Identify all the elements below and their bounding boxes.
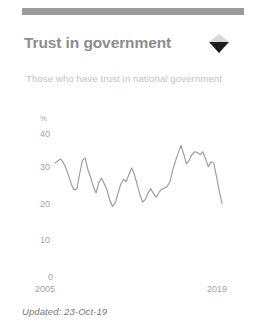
y-axis-unit-label: % <box>40 114 47 123</box>
line-chart: % 40 30 20 10 0 2005 2019 <box>0 100 257 300</box>
updated-timestamp: Updated: 23-Oct-19 <box>22 306 107 317</box>
x-tick-label-end: 2019 <box>207 284 227 294</box>
trust-in-government-card: Trust in government Those who have trust… <box>0 0 257 330</box>
y-tick-label-10: 10 <box>40 235 50 245</box>
collapse-expand-diamond-icon[interactable] <box>208 32 230 54</box>
y-tick-label-30: 30 <box>40 162 50 172</box>
y-tick-label-20: 20 <box>40 199 50 209</box>
page-title: Trust in government <box>24 35 171 51</box>
card-subtitle: Those who have trust in national governm… <box>26 73 246 84</box>
card-header: Trust in government <box>24 30 236 56</box>
card-accent-bar <box>22 8 244 15</box>
y-tick-label-40: 40 <box>40 129 50 139</box>
chart-svg: % 40 30 20 10 0 2005 2019 <box>0 100 257 300</box>
series-line-trust <box>55 145 222 206</box>
triangle-down-shape <box>209 42 229 53</box>
triangle-up-shape <box>209 34 229 42</box>
y-tick-label-0: 0 <box>48 272 53 282</box>
x-tick-label-start: 2005 <box>35 284 55 294</box>
